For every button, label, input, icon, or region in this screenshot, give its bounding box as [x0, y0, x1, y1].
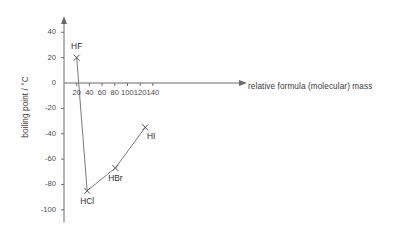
data-point-label: HI: [136, 131, 166, 141]
y-tick-label: -40: [30, 129, 56, 138]
plot-area: [0, 0, 415, 229]
y-tick-label: -60: [30, 154, 56, 163]
x-axis-title: relative formula (molecular) mass: [248, 82, 372, 91]
x-axis-title-wrap: relative formula (molecular) mass: [248, 75, 372, 93]
y-tick-label: 20: [30, 53, 56, 62]
y-tick-label: 0: [30, 78, 56, 87]
x-tick-label: 140: [141, 88, 165, 97]
y-tick-label: -80: [30, 179, 56, 188]
data-point-marker: [142, 124, 148, 130]
y-tick-label: -20: [30, 103, 56, 112]
data-point-label: HBr: [100, 173, 130, 183]
chart-container: boiling point / °C relative formula (mol…: [0, 0, 415, 229]
data-point-label: HCl: [72, 196, 102, 206]
data-point-marker: [112, 165, 118, 171]
y-tick-label: 40: [30, 27, 56, 36]
data-point-label: HF: [62, 41, 92, 51]
y-tick-label: -100: [30, 205, 56, 214]
y-axis-title: boiling point / °C: [21, 76, 30, 138]
